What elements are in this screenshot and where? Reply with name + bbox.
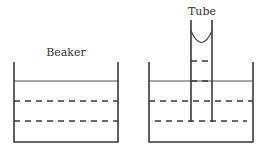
outer-beaker-walls: [149, 62, 253, 142]
beaker-walls: [14, 62, 118, 142]
tube-label: Tube: [188, 5, 216, 18]
beaker-label: Beaker: [46, 46, 86, 59]
tube-meniscus: [191, 31, 212, 43]
beaker-figure: Beaker: [14, 46, 118, 142]
capillary-diagram: Beaker Tube: [0, 0, 266, 151]
tube-figure: Tube: [149, 5, 253, 142]
